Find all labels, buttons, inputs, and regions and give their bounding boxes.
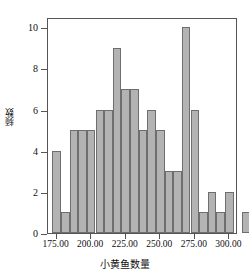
histogram-bar (225, 192, 234, 233)
histogram-bar (156, 130, 165, 233)
histogram-bar (191, 110, 200, 233)
histogram-bar (182, 27, 191, 233)
histogram-bar (165, 171, 174, 233)
histogram-bar (113, 48, 122, 233)
y-axis-tick-label: 2 (20, 188, 38, 198)
x-axis-title: 小黄鱼数量 (0, 256, 249, 271)
histogram-bar (173, 171, 182, 233)
x-axis-tick-label: 300.00 (209, 240, 247, 250)
x-axis-tick-label: 175.00 (37, 240, 75, 250)
y-axis-tick-label: 10 (20, 23, 38, 33)
x-axis-tick-label: 250.00 (140, 240, 178, 250)
y-axis-title: 频数 (2, 108, 15, 126)
y-axis-tick-label: 6 (20, 106, 38, 116)
histogram-bar (96, 110, 105, 233)
histogram-figure: 0246810 频数 175.00200.00225.00250.00275.0… (0, 0, 249, 276)
histogram-bar (52, 151, 61, 233)
x-axis-tick-label: 225.00 (106, 240, 144, 250)
y-axis-tick-label: 8 (20, 64, 38, 74)
histogram-bar (130, 89, 139, 233)
histogram-bar (121, 89, 130, 233)
y-axis-tick-label: 4 (20, 147, 38, 157)
y-axis-tick (41, 69, 47, 70)
histogram-bar (87, 130, 96, 233)
plot-area (47, 18, 237, 234)
histogram-bar (78, 130, 87, 233)
histogram-bar (199, 212, 208, 233)
y-axis-tick (41, 111, 47, 112)
y-axis-tick (41, 28, 47, 29)
histogram-bar (61, 212, 70, 233)
y-axis-tick-label: 0 (20, 229, 38, 239)
x-axis-tick-label: 275.00 (175, 240, 213, 250)
x-axis-tick-label: 200.00 (71, 240, 109, 250)
histogram-bar (147, 110, 156, 233)
bar-series (48, 19, 236, 233)
histogram-bar (208, 192, 217, 233)
histogram-bar (104, 110, 113, 233)
y-axis-tick (41, 234, 47, 235)
y-axis-tick (41, 193, 47, 194)
histogram-bar (70, 130, 79, 233)
histogram-bar (139, 130, 148, 233)
y-axis-tick (41, 152, 47, 153)
histogram-bar (242, 212, 249, 233)
histogram-bar (216, 212, 225, 233)
